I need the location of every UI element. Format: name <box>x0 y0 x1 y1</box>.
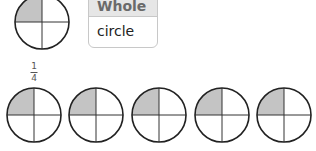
quarter-circle <box>69 88 123 142</box>
circles-canvas <box>0 0 316 151</box>
quarter-circle <box>132 88 186 142</box>
quarter-circle <box>195 88 249 142</box>
shaded-quarter <box>15 0 42 22</box>
fraction-numerator: 1 <box>31 62 38 71</box>
quarter-circle <box>7 88 61 142</box>
table-header: Whole <box>89 0 157 17</box>
whole-circle <box>15 0 69 49</box>
table-cell: circle <box>89 17 157 47</box>
fraction-denominator: 4 <box>31 74 38 83</box>
fraction-label: 1 4 <box>31 62 38 83</box>
whole-table: Whole circle <box>88 0 158 48</box>
quarter-circle <box>257 88 311 142</box>
